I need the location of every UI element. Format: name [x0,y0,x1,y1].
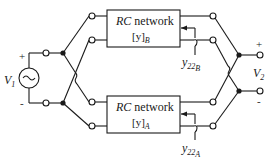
network-b-input-terminal-1 [89,13,95,19]
y22b-label: y22B [181,55,200,73]
output-minus: - [257,95,261,107]
input-terminal-top [43,50,49,56]
output-plus: + [256,38,262,50]
output-terminal-plus [257,52,263,58]
network-a-input-terminal-1 [89,99,95,105]
arrow-icon [181,26,187,31]
circuit-diagram: + - V1 RC network [y]B y22B RC network [… [0,0,276,161]
output-terminal-minus [257,88,263,94]
network-b-input-terminal-2 [89,37,95,43]
source-plus: + [19,50,25,62]
source-label: V1 [4,73,15,89]
network-b-title: RC network [115,14,174,28]
network-a-title: RC network [115,100,174,114]
network-a-input-terminal-2 [89,123,95,129]
arrow-icon [181,112,187,117]
output-label: V2 [253,66,264,82]
source-minus: - [20,97,24,109]
y22a-label: y22A [181,141,200,159]
input-terminal-bottom [43,100,49,106]
